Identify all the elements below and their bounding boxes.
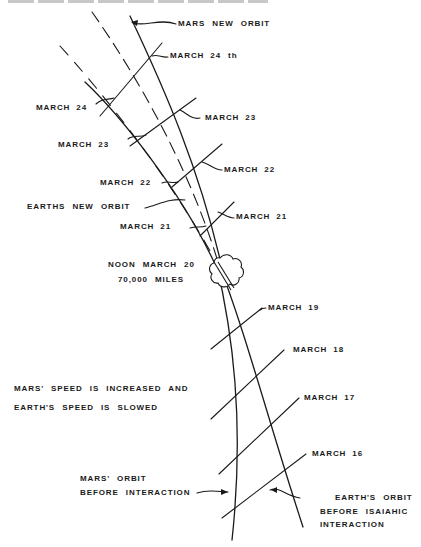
march-label: MARCH xyxy=(293,345,327,354)
march-21-right-label: MARCH21 xyxy=(236,213,287,221)
march-label: MARCH xyxy=(224,165,258,174)
march-label: MARCH xyxy=(205,113,239,122)
march-16-crossline xyxy=(222,454,306,518)
march-17-label: MARCH17 xyxy=(304,394,355,402)
earth-orbit-before-label-line3: INTERACTION xyxy=(320,521,385,529)
orbit-diagram xyxy=(0,0,421,547)
earth-orbit-before-line xyxy=(218,262,303,527)
march-16-label: MARCH16 xyxy=(312,450,363,458)
earth-orbit-before-label-line2: BEFORE ISAIAHIC xyxy=(320,508,408,516)
march-24-crossline xyxy=(100,43,162,116)
mars-new-orbit-leader xyxy=(133,22,176,24)
march-label: MARCH xyxy=(268,303,302,312)
day-label: 23 xyxy=(245,113,256,122)
march-22-left-leader xyxy=(162,182,178,183)
march-22-right-leader xyxy=(202,162,222,170)
march-23-crossline xyxy=(130,98,196,146)
march-label: MARCH xyxy=(100,178,134,187)
earth-orbit-before-label-line1: EARTH'S ORBIT xyxy=(335,494,413,502)
day-label: 17 xyxy=(344,393,355,402)
day-label: 23 xyxy=(98,140,109,149)
distance-label: 70,000 MILES xyxy=(118,276,184,284)
march-18-label: MARCH18 xyxy=(293,346,344,354)
march-label: MARCH xyxy=(236,212,270,221)
day-label: 22 xyxy=(140,178,151,187)
march-18-crossline xyxy=(211,350,284,419)
day-label: 16 xyxy=(352,449,363,458)
march-label: MARCH xyxy=(170,51,204,60)
mars-orbit-before-label-line2: BEFORE INTERACTION xyxy=(80,489,190,497)
march-21-left-leader xyxy=(190,226,206,228)
arrowhead xyxy=(221,489,228,495)
day-label: 24 xyxy=(76,103,87,112)
arrowhead xyxy=(271,487,277,493)
march-19-label: MARCH19 xyxy=(268,304,319,312)
day-label: 24 th xyxy=(210,51,237,60)
march-17-crossline xyxy=(219,398,299,474)
march-23-right-leader xyxy=(180,110,200,118)
march-24th-leader xyxy=(152,55,168,57)
noon-march-20-label: NOON MARCH 20 xyxy=(108,261,195,269)
march-label: MARCH xyxy=(304,393,338,402)
march-21-left-label: MARCH21 xyxy=(120,223,171,231)
day-label: 18 xyxy=(333,345,344,354)
march-label: MARCH xyxy=(120,222,154,231)
march-22-left-label: MARCH22 xyxy=(100,179,151,187)
day-label: 22 xyxy=(264,165,275,174)
march-label: MARCH xyxy=(58,140,92,149)
march-24th-right-label: MARCH24 th xyxy=(170,52,237,60)
earths-new-orbit-leader xyxy=(145,200,185,208)
speed-note-line2: EARTH'S SPEED IS SLOWED xyxy=(14,404,158,412)
march-22-right-label: MARCH22 xyxy=(224,166,275,174)
earths-new-orbit-label: EARTHS NEW ORBIT xyxy=(27,203,130,211)
march-label: MARCH xyxy=(312,449,346,458)
day-label: 21 xyxy=(276,212,287,221)
day-label: 21 xyxy=(160,222,171,231)
march-24-left-label: MARCH24 xyxy=(36,104,87,112)
march-22-crossline xyxy=(172,144,222,187)
mars-orbit-before-line xyxy=(216,262,237,540)
day-label: 19 xyxy=(308,303,319,312)
march-21-crossline xyxy=(200,202,234,236)
mars-orbit-before-label-line1: MARS' ORBIT xyxy=(80,475,146,483)
speed-note-line1: MARS' SPEED IS INCREASED AND xyxy=(14,385,188,393)
march-23-right-label: MARCH23 xyxy=(205,114,256,122)
march-23-left-label: MARCH23 xyxy=(58,141,109,149)
mars-new-orbit-label: MARS NEW ORBIT xyxy=(178,20,270,28)
march-label: MARCH xyxy=(36,103,70,112)
